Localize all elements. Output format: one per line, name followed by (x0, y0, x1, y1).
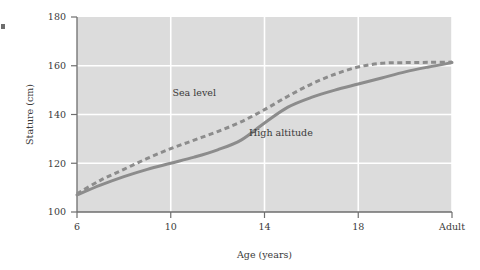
page-edge-mark (1, 24, 5, 29)
y-tick-label: 140 (48, 109, 66, 120)
y-tick-label: 120 (48, 158, 66, 169)
chart-figure: 100120140160180 6101418Adult Sea levelHi… (0, 0, 480, 270)
stature-by-age-line-chart: 100120140160180 6101418Adult Sea levelHi… (0, 0, 480, 270)
y-tick-label: 100 (48, 206, 66, 217)
x-tick-label: 14 (258, 221, 270, 232)
series-annotation-sea-level: Sea level (172, 87, 216, 98)
x-axis-tick-labels: 6101418Adult (74, 221, 465, 232)
x-tick-label: 10 (165, 221, 177, 232)
y-axis-title: Stature (cm) (24, 84, 35, 145)
series-annotation-high-altitude: High altitude (249, 127, 313, 138)
x-axis-title: Age (years) (236, 249, 292, 260)
y-axis-ticks (71, 17, 77, 212)
x-axis-ticks (77, 212, 452, 218)
x-tick-label: 18 (352, 221, 364, 232)
y-tick-label: 180 (48, 11, 66, 22)
x-tick-label: Adult (438, 221, 465, 232)
y-tick-label: 160 (48, 60, 66, 71)
y-axis-tick-labels: 100120140160180 (48, 11, 66, 217)
x-tick-label: 6 (74, 221, 80, 232)
